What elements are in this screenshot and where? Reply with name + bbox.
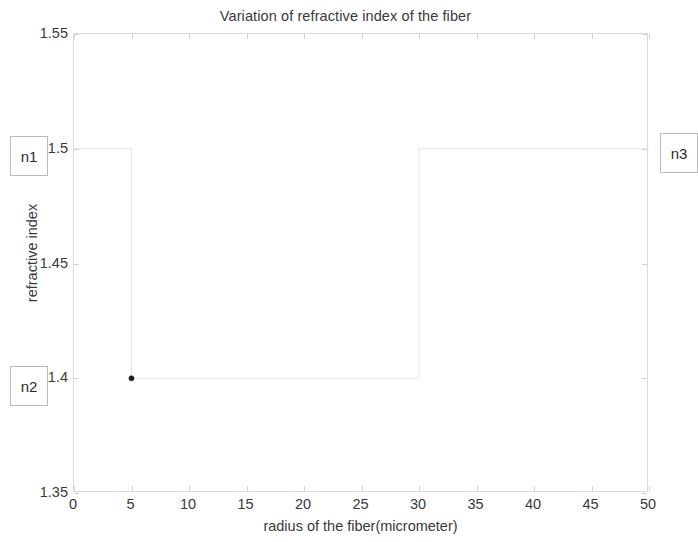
y-tick-mark [642, 378, 647, 379]
x-tick-label: 15 [237, 496, 253, 512]
x-tick-mark [419, 486, 420, 491]
y-tick-label: 1.4 [48, 369, 68, 385]
x-tick-mark [247, 34, 248, 39]
chart-title: Variation of refractive index of the fib… [0, 8, 691, 24]
y-tick-mark [74, 264, 79, 265]
x-tick-mark [304, 34, 305, 39]
curve-point-marker [129, 376, 134, 381]
x-tick-mark [534, 486, 535, 491]
x-tick-label: 30 [410, 496, 426, 512]
y-tick-mark [642, 34, 647, 35]
curve-markers [129, 376, 134, 381]
y-tick-label: 1.35 [40, 484, 68, 500]
y-tick-mark [642, 149, 647, 150]
x-tick-mark [592, 34, 593, 39]
x-tick-mark [189, 34, 190, 39]
annotation-n3: n3 [660, 133, 698, 173]
x-tick-mark [362, 486, 363, 491]
y-tick-mark [642, 493, 647, 494]
x-tick-mark [362, 34, 363, 39]
x-tick-mark [477, 34, 478, 39]
x-axis-label: radius of the fiber(micrometer) [73, 518, 648, 534]
x-tick-label: 45 [582, 496, 598, 512]
x-tick-mark [592, 486, 593, 491]
x-tick-mark [74, 486, 75, 491]
x-tick-label: 20 [295, 496, 311, 512]
x-tick-mark [132, 486, 133, 491]
plot-area [73, 33, 648, 492]
x-tick-mark [189, 486, 190, 491]
x-tick-label: 35 [467, 496, 483, 512]
y-axis-label: refractive index [24, 173, 40, 333]
y-tick-mark [642, 264, 647, 265]
x-tick-mark [477, 486, 478, 491]
x-tick-mark [419, 34, 420, 39]
x-tick-mark [132, 34, 133, 39]
x-tick-label: 50 [640, 496, 656, 512]
y-tick-label: 1.5 [48, 140, 68, 156]
x-tick-mark [247, 486, 248, 491]
step-curve [74, 34, 649, 493]
y-tick-mark [74, 493, 79, 494]
annotation-n1: n1 [10, 136, 48, 176]
x-tick-mark [534, 34, 535, 39]
refractive-index-curve [74, 149, 649, 379]
x-tick-label: 10 [180, 496, 196, 512]
x-tick-label: 5 [126, 496, 134, 512]
annotation-n2: n2 [10, 366, 48, 406]
x-tick-mark [649, 34, 650, 39]
x-tick-label: 0 [69, 496, 77, 512]
y-tick-mark [74, 149, 79, 150]
y-tick-label: 1.55 [40, 25, 68, 41]
x-tick-mark [649, 486, 650, 491]
y-tick-mark [74, 34, 79, 35]
x-tick-label: 25 [352, 496, 368, 512]
y-tick-label: 1.45 [40, 255, 68, 271]
x-tick-mark [304, 486, 305, 491]
x-tick-label: 40 [525, 496, 541, 512]
y-tick-mark [74, 378, 79, 379]
